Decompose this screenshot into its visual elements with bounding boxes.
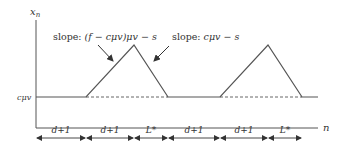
interval-label-5: d+1: [234, 125, 253, 135]
svg-text:slope: (f − cμv)μv − s: slope: (f − cμv)μv − s: [53, 31, 157, 42]
svg-text:slope: cμv − s: slope: cμv − s: [172, 31, 239, 42]
axes: xn n cμv: [17, 6, 329, 133]
interval-label-4: d+1: [184, 125, 203, 135]
interval-label-6: L*: [279, 125, 291, 135]
fall-pointer-arrow: [154, 46, 169, 61]
fall-slope-annotation: slope: cμv − s: [154, 31, 239, 61]
interval-label-3: L*: [145, 125, 157, 135]
interval-label-1: d+1: [51, 125, 70, 135]
interval-label-2: d+1: [100, 125, 119, 135]
x-axis-label: n: [323, 122, 329, 133]
interval-labels: d+1 d+1 L* d+1 d+1 L*: [51, 125, 290, 135]
rise-pointer-arrow: [98, 45, 113, 61]
sawtooth-curve: [36, 45, 318, 97]
sawtooth-diagram: xn n cμv slope: (f − cμv)μv − s slope: c…: [0, 0, 349, 150]
baseline-label: cμv: [17, 93, 32, 102]
y-axis-label: xn: [30, 6, 41, 19]
